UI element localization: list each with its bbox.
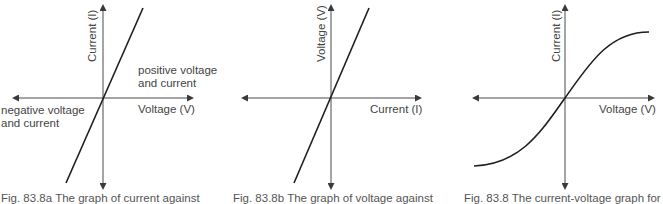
y-axis-label: Current (I) — [86, 10, 99, 62]
y-axis-label: Voltage (V) — [315, 5, 328, 62]
figure-b-plot — [221, 0, 442, 204]
figure-a-plot — [0, 0, 221, 204]
negative-annotation-line2: and current — [1, 117, 59, 130]
figure-caption: Fig. 83.8 The current-voltage graph for — [464, 192, 661, 204]
x-axis-label: Voltage (V) — [138, 103, 195, 116]
positive-annotation-line2: and current — [138, 77, 196, 90]
figure-current-vs-voltage-ohmic: Current (I) positive voltage and current… — [0, 0, 221, 204]
figure-caption: Fig. 83.8a The graph of current against — [1, 192, 200, 204]
iv-line — [66, 8, 143, 183]
figure-voltage-vs-current: Voltage (V) Current (I) Fig. 83.8b The g… — [221, 0, 442, 204]
x-axis-label: Voltage (V) — [599, 103, 656, 116]
positive-annotation-line1: positive voltage — [138, 64, 217, 77]
figure-caption: Fig. 83.8b The graph of voltage against — [233, 192, 433, 204]
y-axis-label: Current (I) — [550, 10, 563, 62]
x-axis-label: Current (I) — [370, 103, 422, 116]
figure-current-vs-voltage-nonohmic: Current (I) Voltage (V) Fig. 83.8 The cu… — [442, 0, 663, 204]
negative-annotation-line1: negative voltage — [1, 104, 85, 117]
